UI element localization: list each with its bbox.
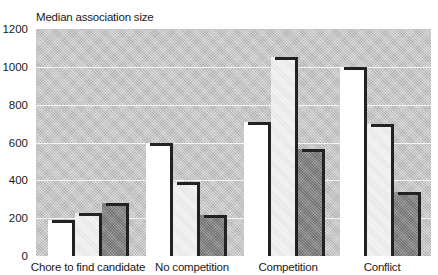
bar-shadow-right [418,192,421,256]
y-tick-label: 0 [0,250,28,262]
x-category-label: No competition [155,261,229,273]
bar [271,57,298,256]
bar-shadow-right [126,203,129,256]
y-tick-label: 1200 [0,23,28,35]
y-tick-label: 600 [0,137,28,149]
bar [48,220,75,256]
y-tick-label: 400 [0,174,28,186]
bar [394,192,421,256]
bar [340,67,367,256]
bar [298,149,325,256]
y-tick-label: 1000 [0,61,28,73]
plot-area [36,29,431,256]
bar [102,203,129,256]
bar-shadow-right [322,149,325,256]
y-tick-label: 800 [0,99,28,111]
bar [75,213,102,257]
gridline [36,105,431,106]
bar [244,122,271,256]
x-category-label: Conflict [364,261,401,273]
y-tick-label: 200 [0,212,28,224]
bar [173,182,200,256]
y-axis-label: Median association size [36,11,154,23]
bar [200,215,227,256]
x-category-label: Chore to find candidate [31,261,145,273]
bar-shadow-right [224,215,227,256]
x-category-label: Competition [258,261,317,273]
gridline [36,67,431,68]
bar [367,124,394,256]
bar [146,143,173,257]
